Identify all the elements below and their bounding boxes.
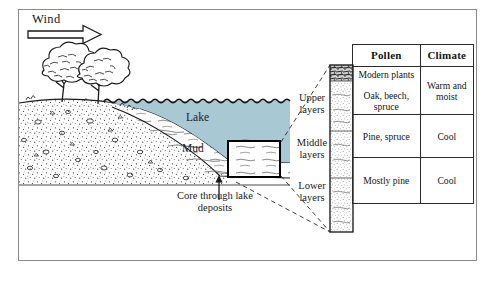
layer-middle-line2: layers	[299, 149, 324, 160]
cell-climate-upper: Warm and moist	[420, 67, 473, 115]
wind-arrow-icon	[28, 26, 101, 44]
cell-pollen-lower: Mostly pine	[353, 158, 421, 204]
lake-label: Lake	[186, 111, 209, 123]
core-caption: Core through lake deposits	[160, 190, 270, 213]
table-header-row: Pollen Climate	[353, 45, 474, 67]
pollen-climate-table: Pollen Climate Modern plants Oak, beech,…	[352, 44, 474, 204]
layer-lower-line2: layers	[299, 192, 324, 203]
cell-climate-middle: Cool	[420, 115, 473, 158]
column-header-climate: Climate	[420, 45, 473, 67]
cell-pollen-upper-primary: Modern plants	[355, 69, 418, 80]
layer-lower-line1: Lower	[298, 180, 325, 191]
wind-label: Wind	[32, 12, 60, 27]
layer-label-middle: Middle layers	[281, 137, 343, 160]
table-row: Pine, spruce Cool	[353, 115, 474, 158]
layer-upper-line1: Upper	[299, 92, 325, 103]
cell-pollen-upper-secondary: Oak, beech, spruce	[355, 90, 418, 112]
cell-climate-lower: Cool	[420, 158, 473, 204]
cell-pollen-upper: Modern plants Oak, beech, spruce	[353, 67, 421, 115]
table-row: Modern plants Oak, beech, spruce Warm an…	[353, 67, 474, 115]
layer-upper-line2: layers	[299, 104, 324, 115]
tree-right-icon	[77, 48, 129, 104]
layer-middle-line1: Middle	[297, 137, 327, 148]
table-row: Mostly pine Cool	[353, 158, 474, 204]
mud-label: Mud	[182, 142, 204, 154]
cell-pollen-middle: Pine, spruce	[353, 115, 421, 158]
core-sample-box	[228, 141, 280, 177]
figure-root: Wind Lake Mud Core through lake deposits…	[0, 0, 489, 283]
layer-label-lower: Lower layers	[281, 180, 343, 203]
column-header-pollen: Pollen	[353, 45, 421, 67]
layer-label-upper: Upper layers	[281, 92, 343, 115]
